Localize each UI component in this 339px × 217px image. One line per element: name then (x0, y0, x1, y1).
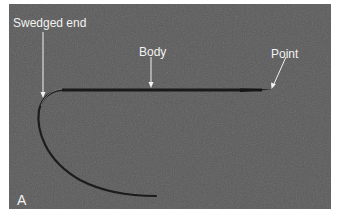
label-swedged-end: Swedged end (13, 17, 86, 29)
photo-background (9, 4, 331, 209)
needle-photo: Swedged end Body Point A (9, 4, 331, 209)
panel-letter: A (17, 193, 26, 207)
label-body: Body (139, 46, 166, 58)
label-point: Point (271, 48, 298, 60)
needle-illustration (9, 4, 331, 209)
